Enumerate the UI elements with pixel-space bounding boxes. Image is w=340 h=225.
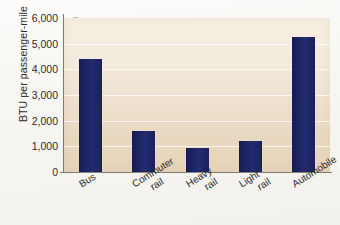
bar (292, 37, 315, 172)
y-axis-tick-label: 4,000 (14, 63, 58, 75)
bar-series (64, 18, 330, 172)
bar-chart-figure: BTU per passenger-mile 6,0005,0004,0003,… (0, 0, 340, 225)
y-axis-tick-label: 3,000 (14, 89, 58, 101)
y-axis-tick-label: 5,000 (14, 38, 58, 50)
y-axis-tick-label: 1,000 (14, 140, 58, 152)
x-axis-category-label-line: Bus (77, 171, 97, 189)
bar (79, 59, 102, 172)
x-axis-category-label: Bus (77, 171, 98, 190)
y-axis-tick-labels: 6,0005,0004,0003,0002,0001,0000 (14, 12, 58, 178)
y-axis-tick-label: 6,000 (14, 12, 58, 24)
y-axis-tick-label: 2,000 (14, 115, 58, 127)
x-axis-category-labels: BusCommuterrailHeavyrailLightrailAutomob… (0, 176, 340, 225)
